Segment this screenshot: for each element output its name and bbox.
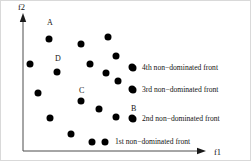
data-point [35,90,42,97]
legend-label-front4: 4th non−dominated front [142,64,218,72]
legend-label-front3: 3rd non−dominated front [142,86,218,94]
data-point [68,131,75,138]
data-point [89,139,96,146]
legend-label-front1: 1st non−dominated front [115,138,190,146]
x-axis-arrowhead [197,148,206,154]
data-point [102,139,109,146]
legend-marker-front4 [129,64,136,71]
scatter-plot-figure: f2 f1 ADCB 4th non−dominated front3rd no… [0,0,251,161]
data-point [54,69,61,76]
data-point [46,36,53,43]
data-point [103,70,110,77]
data-point [113,53,120,60]
data-point [78,98,85,105]
x-axis-label: f1 [214,148,221,157]
y-axis-arrowhead [20,13,26,22]
legend-marker-front3 [129,86,136,93]
y-axis-label: f2 [18,3,25,12]
legend-label-front2: 2nd non−dominated front [142,115,220,123]
data-point [105,34,112,41]
point-label-b: B [131,105,136,113]
point-label-a: A [47,19,53,27]
legend-marker-front2 [129,115,136,122]
data-point [96,106,103,113]
axes-group [20,13,206,154]
data-point [115,78,122,85]
data-point [87,61,94,68]
data-point [113,114,120,121]
point-label-d: D [55,55,61,63]
data-point [78,41,85,48]
point-label-c: C [79,87,84,95]
data-point [47,115,54,122]
data-point [27,61,34,68]
